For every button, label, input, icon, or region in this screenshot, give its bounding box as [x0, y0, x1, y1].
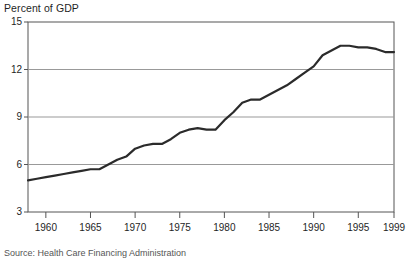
x-tick-label-1999: 1999: [374, 222, 407, 233]
x-axis-ticks: [46, 212, 394, 218]
x-tick-label-1980: 1980: [204, 222, 244, 233]
y-tick-label-9: 9: [2, 111, 22, 122]
x-tick-label-1990: 1990: [294, 222, 334, 233]
x-tick-label-1975: 1975: [160, 222, 200, 233]
y-axis-ticks: [24, 22, 28, 212]
chart-container: Percent of GDP 3691215 19601965197019751…: [0, 0, 407, 260]
line-chart-plot: [0, 0, 407, 260]
x-tick-label-1960: 1960: [26, 222, 66, 233]
x-tick-label-1995: 1995: [338, 222, 378, 233]
x-tick-label-1970: 1970: [115, 222, 155, 233]
source-note: Source: Health Care Financing Administra…: [4, 248, 186, 258]
y-tick-label-12: 12: [2, 64, 22, 75]
x-tick-label-1965: 1965: [70, 222, 110, 233]
y-tick-label-15: 15: [2, 16, 22, 27]
y-tick-label-3: 3: [2, 206, 22, 217]
x-tick-label-1985: 1985: [249, 222, 289, 233]
y-tick-label-6: 6: [2, 159, 22, 170]
